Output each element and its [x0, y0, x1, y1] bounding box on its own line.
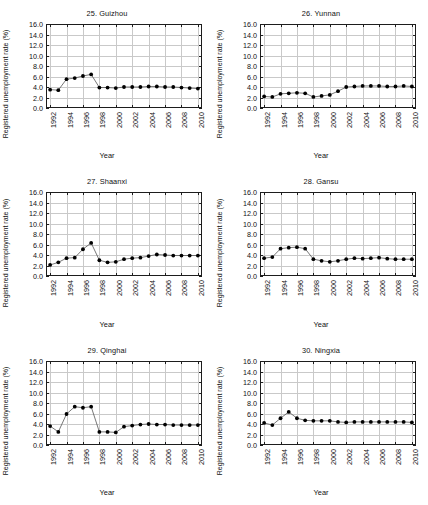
x-tick-label: 2010	[196, 112, 205, 128]
data-point-marker	[328, 260, 332, 264]
y-tick-label: 14.0	[29, 198, 43, 207]
data-point-marker	[270, 423, 274, 427]
data-point-marker	[81, 406, 85, 410]
data-point-marker	[361, 420, 365, 424]
data-point-marker	[410, 85, 414, 89]
y-tick-label: 10.0	[243, 51, 257, 60]
x-tick-label: 2006	[164, 449, 173, 465]
data-point-marker	[311, 257, 315, 261]
x-tick-label: 2004	[147, 112, 156, 128]
data-point-marker	[122, 85, 126, 89]
data-point-marker	[287, 246, 291, 250]
data-series	[46, 24, 202, 108]
data-point-marker	[147, 422, 151, 426]
data-point-marker	[130, 256, 134, 260]
x-tick-label: 2010	[410, 112, 419, 128]
data-point-marker	[377, 84, 381, 88]
data-point-marker	[287, 91, 291, 95]
x-tick-label: 2002	[345, 449, 354, 465]
data-point-marker	[65, 77, 69, 81]
chart-panel: 26. YunnanRegistered unemployment rate (…	[214, 0, 428, 168]
plot-area: 0.02.04.06.08.010.012.014.016.0199219941…	[260, 192, 416, 276]
x-axis-label: Year	[0, 488, 214, 497]
x-tick-label: 1992	[49, 449, 58, 465]
y-tick-label: 14.0	[243, 198, 257, 207]
x-tick-label: 2010	[410, 449, 419, 465]
chart-panel: 25. GuizhouRegistered unemployment rate …	[0, 0, 214, 168]
data-point-marker	[344, 85, 348, 89]
data-point-marker	[163, 423, 167, 427]
data-point-marker	[377, 256, 381, 260]
data-point-marker	[394, 85, 398, 89]
y-tick-label: 14.0	[243, 30, 257, 39]
y-tick-label: 4.0	[33, 83, 43, 92]
x-tick-label: 1998	[312, 449, 321, 465]
data-point-marker	[163, 253, 167, 257]
data-point-marker	[97, 86, 101, 90]
y-tick-label: 8.0	[33, 62, 43, 71]
y-tick-mark	[413, 108, 416, 109]
y-tick-label: 4.0	[247, 420, 257, 429]
y-tick-label: 2.0	[33, 93, 43, 102]
y-tick-label: 12.0	[243, 41, 257, 50]
x-tick-label: 1994	[65, 449, 74, 465]
x-tick-label: 2008	[394, 112, 403, 128]
plot-area: 0.02.04.06.08.010.012.014.016.0199219941…	[46, 24, 202, 108]
y-tick-label: 6.0	[33, 409, 43, 418]
data-series	[46, 192, 202, 276]
x-tick-label: 1992	[263, 112, 272, 128]
data-point-marker	[81, 247, 85, 251]
x-axis-label: Year	[214, 151, 428, 160]
y-tick-mark	[199, 108, 202, 109]
data-point-marker	[295, 245, 299, 249]
data-point-marker	[410, 421, 414, 425]
y-tick-label: 14.0	[29, 367, 43, 376]
y-tick-label: 8.0	[247, 62, 257, 71]
plot-area: 0.02.04.06.08.010.012.014.016.0199219941…	[260, 361, 416, 445]
x-tick-label: 2004	[147, 280, 156, 296]
data-point-marker	[196, 423, 200, 427]
data-point-marker	[73, 256, 77, 260]
y-tick-label: 4.0	[33, 251, 43, 260]
y-tick-label: 6.0	[247, 72, 257, 81]
y-axis-label: Registered unemployment rate (%)	[2, 362, 9, 480]
x-tick-label: 1992	[263, 449, 272, 465]
data-point-marker	[311, 95, 315, 99]
plot-area: 0.02.04.06.08.010.012.014.016.0199219941…	[260, 24, 416, 108]
data-point-marker	[344, 257, 348, 261]
y-tick-label: 16.0	[29, 357, 43, 366]
data-point-marker	[262, 95, 266, 99]
data-point-marker	[311, 419, 315, 423]
x-tick-label: 2002	[131, 280, 140, 296]
data-point-marker	[147, 254, 151, 258]
y-tick-label: 8.0	[33, 230, 43, 239]
data-point-marker	[262, 256, 266, 260]
x-tick-label: 2000	[328, 449, 337, 465]
y-tick-label: 0.0	[33, 104, 43, 113]
y-tick-label: 8.0	[247, 230, 257, 239]
y-tick-label: 8.0	[33, 399, 43, 408]
data-point-marker	[336, 259, 340, 263]
data-point-marker	[97, 430, 101, 434]
y-tick-label: 2.0	[33, 430, 43, 439]
data-point-marker	[385, 420, 389, 424]
y-tick-label: 2.0	[247, 261, 257, 270]
data-point-marker	[114, 260, 118, 264]
panel-title: 29. Qinghai	[0, 346, 214, 355]
data-point-marker	[402, 420, 406, 424]
y-tick-mark	[413, 445, 416, 446]
data-point-marker	[122, 425, 126, 429]
x-tick-label: 1994	[65, 280, 74, 296]
y-tick-label: 8.0	[247, 399, 257, 408]
x-tick-label: 2006	[378, 112, 387, 128]
x-tick-label: 2002	[131, 449, 140, 465]
data-point-marker	[130, 424, 134, 428]
x-tick-label: 1998	[98, 449, 107, 465]
x-tick-label: 1998	[98, 112, 107, 128]
data-point-marker	[171, 85, 175, 89]
data-point-marker	[377, 420, 381, 424]
x-tick-label: 2004	[361, 112, 370, 128]
y-tick-label: 12.0	[243, 209, 257, 218]
x-tick-label: 2010	[196, 280, 205, 296]
x-tick-label: 2006	[164, 112, 173, 128]
